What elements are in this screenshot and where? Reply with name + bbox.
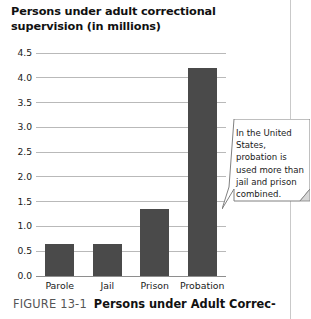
- figure-caption: FIGURE 13-1Persons under Adult Correc-: [13, 297, 285, 312]
- y-axis-tick-label: 1.5: [2, 197, 32, 206]
- chart-title: Persons under adult correctional supervi…: [11, 5, 241, 34]
- x-axis-tick-label: Probation: [173, 280, 233, 291]
- y-axis-tick-label: 4.5: [2, 48, 32, 57]
- figure-13-1: Persons under adult correctional supervi…: [0, 0, 290, 319]
- plot-area: 0.00.51.01.52.02.53.03.54.04.5 ParoleJai…: [36, 53, 226, 276]
- bars-group: ParoleJailPrisonProbation: [36, 53, 226, 276]
- annotation-callout: In the United States, probation is used …: [222, 119, 310, 211]
- figure-caption-title: Persons under Adult Correc-: [94, 297, 276, 311]
- bar-jail: [93, 244, 122, 276]
- bar-probation: [188, 68, 217, 276]
- bar-parole: [45, 244, 74, 276]
- y-axis-tick-label: 3.0: [2, 122, 32, 131]
- figure-caption-label: FIGURE 13-1: [13, 297, 87, 311]
- y-axis-tick-label: 2.0: [2, 172, 32, 181]
- annotation-text: In the United States, probation is used …: [236, 127, 308, 200]
- y-axis-tick-label: 4.0: [2, 73, 32, 82]
- y-axis-tick-label: 1.0: [2, 221, 32, 230]
- y-axis-tick-label: 0.5: [2, 246, 32, 255]
- y-axis-tick-label: 0.0: [2, 271, 32, 280]
- y-axis-tick-label: 3.5: [2, 98, 32, 107]
- bar-prison: [140, 209, 169, 276]
- y-axis-tick-label: 2.5: [2, 147, 32, 156]
